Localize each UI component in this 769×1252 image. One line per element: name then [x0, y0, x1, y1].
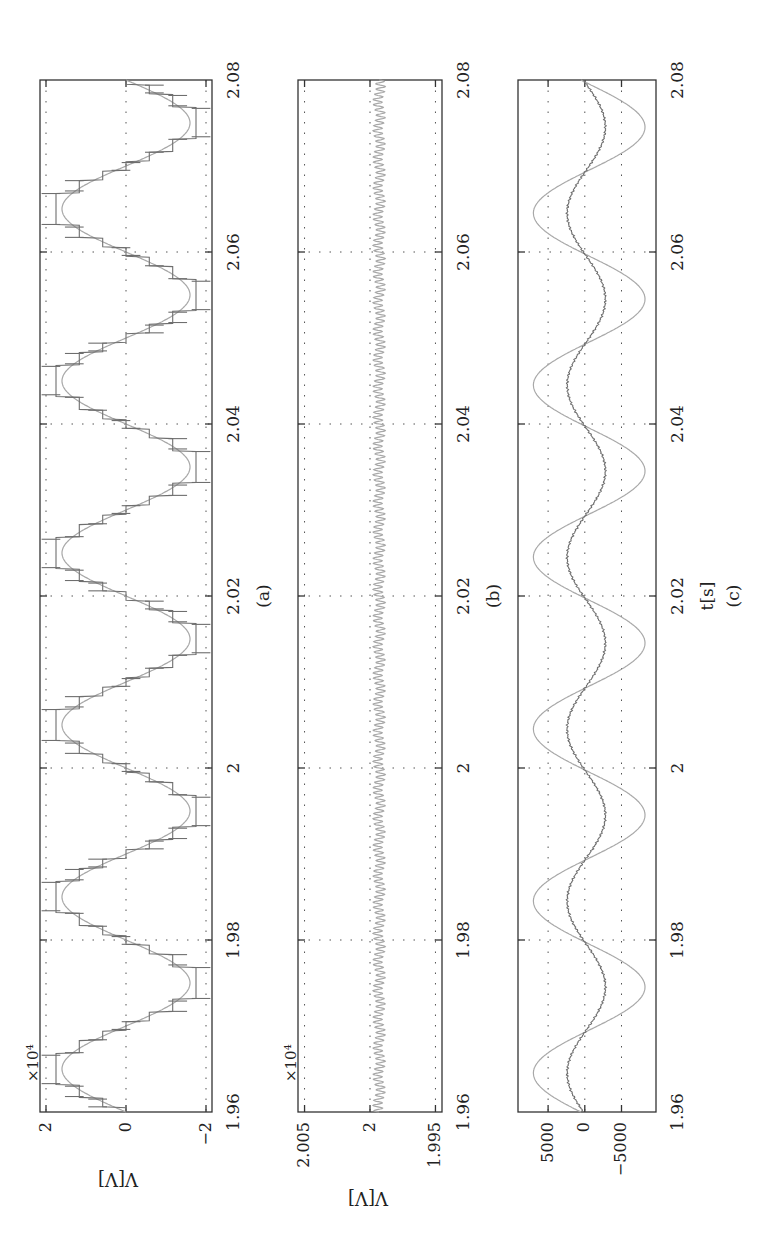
axis-exponent-label: ×10⁴ — [24, 1044, 42, 1082]
y-tick-label: 0 — [116, 1122, 135, 1132]
x-tick-label: 2.04 — [223, 405, 243, 443]
x-tick-label: 2 — [667, 763, 687, 774]
x-tick-label: 2.02 — [223, 577, 243, 615]
figure: 1.961.9822.022.042.062.0820−2×10⁴(a) 1.9… — [0, 0, 769, 1252]
small-sinusoid-trace — [566, 80, 606, 1112]
x-tick-label: 1.98 — [453, 921, 473, 959]
y-axis-label-a: V[V] — [98, 1169, 139, 1190]
y-tick-label: 2 — [36, 1122, 55, 1132]
x-axis-label: t[s] — [697, 582, 717, 611]
x-tick-label: 2.06 — [667, 233, 687, 271]
x-tick-label: 2.08 — [223, 61, 243, 99]
x-tick-label: 2 — [223, 763, 243, 774]
panel-caption: (a) — [253, 584, 273, 607]
axes-frame — [518, 80, 656, 1112]
panel-c: 1.961.9822.022.042.062.0850000−5000(c)t[… — [518, 61, 743, 1176]
x-tick-label: 2.02 — [453, 577, 473, 615]
x-tick-label: 2.06 — [453, 233, 473, 271]
panel-caption: (c) — [723, 585, 743, 608]
panel-b: 1.961.9822.022.042.062.082.00521.995×10⁴… — [282, 61, 503, 1168]
y-tick-label: 2 — [360, 1122, 379, 1132]
panel-caption: (b) — [483, 584, 503, 608]
y-axis-label-b: V[V] — [348, 1188, 389, 1209]
x-tick-label: 1.96 — [667, 1093, 687, 1131]
panel-a: 1.961.9822.022.042.062.0820−2×10⁴(a) — [24, 61, 273, 1146]
y-tick-label: 1.995 — [425, 1122, 444, 1168]
x-tick-label: 1.98 — [667, 921, 687, 959]
x-tick-label: 2.02 — [667, 577, 687, 615]
x-tick-label: 1.96 — [453, 1093, 473, 1131]
x-tick-label: 2.04 — [453, 405, 473, 443]
y-tick-label: −5000 — [611, 1122, 630, 1176]
y-tick-label: 0 — [574, 1122, 593, 1132]
y-tick-label: 2.005 — [294, 1122, 313, 1168]
x-tick-label: 2 — [453, 763, 473, 774]
x-tick-label: 2.06 — [223, 233, 243, 271]
axis-exponent-label: ×10⁴ — [282, 1044, 300, 1082]
x-tick-label: 1.98 — [223, 921, 243, 959]
x-tick-label: 2.08 — [667, 61, 687, 99]
x-tick-label: 2.04 — [667, 405, 687, 443]
x-tick-label: 2.08 — [453, 61, 473, 99]
y-tick-label: 5000 — [538, 1122, 557, 1163]
x-tick-label: 1.96 — [223, 1093, 243, 1131]
staircase-trace — [56, 80, 196, 1112]
y-tick-label: −2 — [196, 1122, 215, 1146]
